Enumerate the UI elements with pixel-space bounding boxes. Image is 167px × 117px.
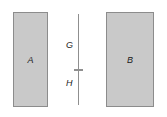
block-b: B bbox=[106, 12, 154, 107]
diagram-canvas: A G H B bbox=[0, 0, 167, 117]
block-b-label: B bbox=[107, 55, 153, 64]
block-a: A bbox=[13, 12, 48, 107]
dimension-line bbox=[78, 14, 79, 105]
block-a-label: A bbox=[14, 55, 47, 64]
dimension-label-h: H bbox=[66, 79, 73, 88]
dimension-tick-icon bbox=[74, 69, 83, 71]
dimension-label-g: G bbox=[66, 41, 73, 50]
